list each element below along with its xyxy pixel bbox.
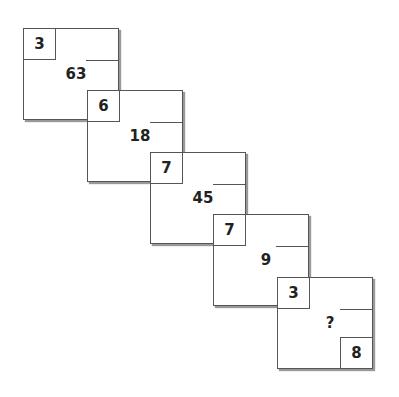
corner-number: 7 bbox=[213, 214, 246, 246]
corner-number: 6 bbox=[87, 90, 120, 122]
divider-line bbox=[86, 60, 118, 61]
center-number: 18 bbox=[120, 127, 160, 145]
corner-number: 3 bbox=[23, 28, 56, 60]
center-number: 9 bbox=[246, 251, 286, 269]
divider-line bbox=[276, 246, 308, 247]
corner-number: 3 bbox=[277, 277, 310, 309]
divider-line bbox=[150, 122, 182, 123]
corner-bottom-right: 8 bbox=[340, 337, 373, 369]
divider-line bbox=[213, 184, 245, 185]
corner-number: 7 bbox=[150, 152, 183, 184]
divider-line bbox=[340, 309, 372, 310]
center-number: 45 bbox=[183, 189, 223, 207]
center-number: ? bbox=[310, 314, 350, 332]
center-number: 63 bbox=[56, 65, 96, 83]
